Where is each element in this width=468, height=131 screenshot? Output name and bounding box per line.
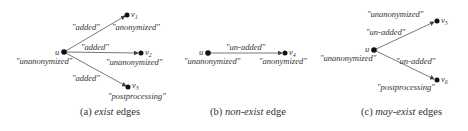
panel-b-non-exist-edge: u "unanonymized" "un-added" v4 "anonymiz… <box>184 42 307 66</box>
node-u <box>61 49 67 55</box>
node-v5-label: "unanonymized" <box>367 9 424 19</box>
svg-text:v1: v1 <box>131 9 138 20</box>
node-v5-sub: 5 <box>445 20 448 26</box>
caption-suffix: edges <box>114 106 141 117</box>
node-u <box>205 50 211 56</box>
caption-b: (b) non-exist edge <box>210 106 286 117</box>
node-v1-sub: 1 <box>135 14 138 20</box>
node-v6-label: "postprocessing" <box>377 82 435 92</box>
panel-a-exist-edges: u "unanonymized" "added" v1 "anonymized"… <box>16 9 166 101</box>
svg-text:v5: v5 <box>441 15 448 26</box>
caption-prefix: (b) <box>210 106 225 117</box>
caption-emphasis: may-exist <box>375 106 415 117</box>
node-v6 <box>435 78 440 83</box>
panel-c-may-exist-edges: u "unanonymized" "unanonymized" v5 "un-a… <box>320 9 448 92</box>
node-v2-label: "unanonymized" <box>106 57 163 67</box>
node-v6-sub: 6 <box>445 79 448 85</box>
caption-emphasis: non-exist <box>225 106 264 117</box>
caption-emphasis: exist <box>94 106 113 117</box>
node-v4-label: "anonymized" <box>259 56 307 66</box>
node-u <box>371 47 377 53</box>
caption-suffix: edge <box>263 106 285 117</box>
edge-label: "added" <box>72 73 100 83</box>
node-v3 <box>126 85 131 90</box>
caption-prefix: (c) <box>361 106 375 117</box>
caption-a: (a) exist edges <box>80 106 140 117</box>
node-v1 <box>125 13 130 18</box>
caption-prefix: (a) <box>80 106 94 117</box>
svg-text:v6: v6 <box>441 74 448 85</box>
edge-label: "added" <box>81 42 109 52</box>
caption-c: (c) may-exist edges <box>361 106 442 117</box>
node-u-label: "unanonymized" <box>184 56 241 66</box>
node-v5 <box>435 19 440 24</box>
svg-text:v3: v3 <box>132 80 139 91</box>
edge-label: "un-added" <box>396 56 436 66</box>
edge-label: "un-added" <box>226 42 266 52</box>
edge-label: "un-added" <box>366 27 406 37</box>
edge-u-v2 <box>64 52 138 53</box>
node-u-label: "unanonymized" <box>320 53 377 63</box>
node-v4 <box>283 51 288 56</box>
node-v2 <box>139 51 144 56</box>
node-u-label: "unanonymized" <box>16 56 73 66</box>
node-v1-label: "anonymized" <box>112 22 160 32</box>
caption-suffix: edges <box>416 106 443 117</box>
edge-label: "added" <box>72 22 100 32</box>
node-v3-label: "postprocessing" <box>108 91 166 101</box>
